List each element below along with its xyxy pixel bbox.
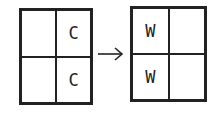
right-cell-1: W (132, 8, 169, 54)
left-cell-3 (21, 57, 56, 104)
right-cell-4 (169, 54, 206, 100)
left-cell-4: C (56, 57, 91, 104)
left-grid: C C (19, 8, 93, 105)
right-arrow-icon (97, 44, 125, 64)
right-grid: W W (130, 6, 207, 102)
left-cell-2: C (56, 10, 91, 57)
right-cell-3: W (132, 54, 169, 100)
right-cell-2 (169, 8, 206, 54)
left-cell-1 (21, 10, 56, 57)
